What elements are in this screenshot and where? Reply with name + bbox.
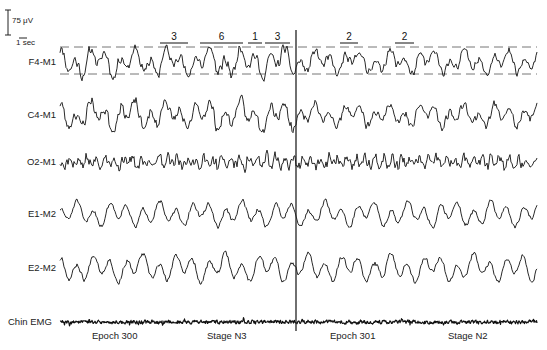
channel-label-o2-m1: O2-M1 [0, 156, 56, 167]
trace-o2-m1 [60, 150, 537, 173]
epoch-300-label: Epoch 300 [92, 330, 137, 341]
trace-e1-m2 [60, 199, 537, 229]
eeg-traces [0, 0, 547, 350]
channel-label-c4-m1: C4-M1 [0, 109, 56, 120]
channel-label-chin-emg: Chin EMG [8, 316, 52, 327]
channel-label-f4-m1: F4-M1 [0, 56, 56, 67]
trace-f4-m1 [60, 45, 537, 82]
trace-e2-m2 [60, 251, 537, 284]
channel-label-e2-m2: E2-M2 [0, 262, 56, 273]
annotation-count: 1 [245, 31, 265, 42]
annotation-count: 6 [212, 31, 232, 42]
stage-n3-label: Stage N3 [207, 330, 247, 341]
annotation-count: 2 [395, 31, 415, 42]
stage-n2-label: Stage N2 [448, 330, 488, 341]
epoch-301-label: Epoch 301 [330, 330, 375, 341]
annotation-count: 3 [268, 31, 288, 42]
trace-c4-m1 [60, 95, 537, 133]
annotation-count: 2 [339, 31, 359, 42]
annotation-count: 3 [164, 31, 184, 42]
trace-chin-emg [60, 318, 537, 326]
channel-label-e1-m2: E1-M2 [0, 208, 56, 219]
